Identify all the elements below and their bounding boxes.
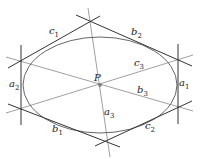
tangent-c1 [8,16,100,68]
diagram: P c1 b2 c3 a2 a1 b3 a3 b1 c2 [0,0,200,159]
label-a3: a3 [104,107,114,120]
label-a1: a1 [179,78,189,91]
center-point [98,83,102,87]
label-c2: c2 [145,121,155,134]
label-p: P [94,73,101,83]
label-c1: c1 [49,26,59,39]
label-b3: b3 [137,85,148,98]
label-a2: a2 [9,79,19,92]
label-b2: b2 [131,27,142,40]
label-c3: c3 [134,58,144,71]
label-b1: b1 [52,124,63,137]
